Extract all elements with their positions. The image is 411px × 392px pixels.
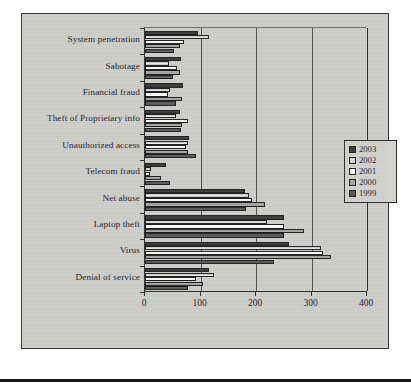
bar-group bbox=[145, 186, 366, 212]
bar-1999 bbox=[145, 128, 181, 132]
bar-group bbox=[145, 213, 366, 239]
chart-figure: Denial of serviceVirusLaptop theftNet ab… bbox=[21, 13, 389, 349]
legend: 20032002200120001999 bbox=[344, 140, 397, 203]
legend-swatch-icon bbox=[349, 190, 356, 197]
legend-label: 1999 bbox=[359, 189, 376, 198]
category-label: Financial fraud bbox=[83, 87, 140, 97]
category-label: Virus bbox=[120, 245, 140, 255]
bar-1999 bbox=[145, 181, 170, 185]
legend-swatch-icon bbox=[349, 157, 356, 164]
page-divider-rule bbox=[0, 379, 411, 382]
x-tick-label-300: 300 bbox=[303, 298, 317, 308]
plot-area bbox=[144, 27, 366, 291]
bar-1999 bbox=[145, 233, 284, 237]
category-label: System penetration bbox=[68, 34, 140, 44]
bar-group bbox=[145, 134, 366, 160]
legend-label: 2000 bbox=[359, 178, 376, 187]
category-tick bbox=[140, 186, 145, 187]
category-label: Net abuse bbox=[103, 193, 140, 203]
category-label: Denial of service bbox=[76, 272, 140, 282]
category-label: Telecom fraud bbox=[86, 166, 140, 176]
bar-group bbox=[145, 54, 366, 80]
bar-group bbox=[145, 107, 366, 133]
category-tick bbox=[140, 239, 145, 240]
bar-group bbox=[145, 266, 366, 292]
category-label: Sabotage bbox=[106, 61, 140, 71]
legend-item-1999: 1999 bbox=[349, 188, 393, 199]
legend-item-2000: 2000 bbox=[349, 177, 393, 188]
category-tick bbox=[140, 107, 145, 108]
bar-group bbox=[145, 28, 366, 54]
x-tick-label-100: 100 bbox=[192, 298, 206, 308]
x-tick-label-200: 200 bbox=[248, 298, 262, 308]
legend-swatch-icon bbox=[349, 168, 356, 175]
x-tick-400 bbox=[366, 291, 367, 296]
category-tick bbox=[140, 266, 145, 267]
bar-1999 bbox=[145, 49, 174, 53]
bar-1999 bbox=[145, 286, 188, 290]
bar-1999 bbox=[145, 154, 196, 158]
legend-item-2001: 2001 bbox=[349, 166, 393, 177]
legend-item-2002: 2002 bbox=[349, 155, 393, 166]
bar-1999 bbox=[145, 75, 173, 79]
x-tick-label-0: 0 bbox=[142, 298, 147, 308]
category-tick bbox=[140, 134, 145, 135]
bar-group bbox=[145, 239, 366, 265]
x-tick-label-400: 400 bbox=[359, 298, 373, 308]
bar-group bbox=[145, 160, 366, 186]
category-label: Laptop theft bbox=[94, 219, 140, 229]
bar-1999 bbox=[145, 260, 274, 264]
category-axis-labels: Denial of serviceVirusLaptop theftNet ab… bbox=[28, 27, 140, 291]
category-tick bbox=[140, 160, 145, 161]
legend-label: 2003 bbox=[359, 145, 376, 154]
category-tick bbox=[140, 213, 145, 214]
category-tick bbox=[140, 81, 145, 82]
category-tick bbox=[140, 28, 145, 29]
category-tick bbox=[140, 292, 145, 293]
legend-label: 2001 bbox=[359, 167, 376, 176]
legend-swatch-icon bbox=[349, 146, 356, 153]
category-label: Unauthorized access bbox=[62, 140, 140, 150]
legend-swatch-icon bbox=[349, 179, 356, 186]
bar-1999 bbox=[145, 207, 246, 211]
legend-item-2003: 2003 bbox=[349, 144, 393, 155]
legend-label: 2002 bbox=[359, 156, 376, 165]
bar-group bbox=[145, 81, 366, 107]
bar-1999 bbox=[145, 101, 176, 105]
category-tick bbox=[140, 54, 145, 55]
category-label: Theft of Proprietary info bbox=[47, 113, 140, 123]
